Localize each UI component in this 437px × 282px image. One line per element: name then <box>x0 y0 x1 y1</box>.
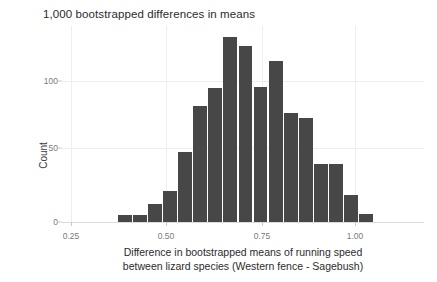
x-tick-label-050: 0.50 <box>158 231 175 241</box>
x-tick-label-025: 0.25 <box>63 231 80 241</box>
y-tick-mark-100 <box>58 81 62 82</box>
x-axis-line <box>62 222 424 223</box>
histogram-bar <box>148 204 162 222</box>
y-axis-label: Count <box>38 111 49 201</box>
histogram-bar <box>223 37 237 222</box>
histogram-bar <box>254 87 268 222</box>
y-tick-mark-0 <box>58 222 62 223</box>
x-tick-mark-025 <box>71 222 72 226</box>
y-axis-ticks: 100 50 0 Count <box>20 26 58 222</box>
histogram-bar <box>359 214 373 222</box>
x-axis-label-line1: Difference in bootstrapped means of runn… <box>62 246 424 260</box>
x-tick-label-075: 0.75 <box>254 231 271 241</box>
histogram-bar <box>344 195 358 222</box>
x-tick-label-100: 1.00 <box>347 231 364 241</box>
histogram-bar <box>208 88 222 222</box>
x-tick-mark-100 <box>355 222 356 226</box>
histogram-bars <box>62 26 424 222</box>
x-axis-label-line2: between lizard species (Western fence - … <box>62 260 424 274</box>
y-tick-label-0: 0 <box>24 217 58 227</box>
y-tick-label-100: 100 <box>24 76 58 86</box>
histogram-bar <box>299 118 313 222</box>
histogram-bar <box>193 106 207 222</box>
x-tick-mark-075 <box>262 222 263 226</box>
page-title: 1,000 bootstrapped differences in means <box>43 8 255 20</box>
histogram-bar <box>329 164 343 222</box>
histogram-bar <box>178 152 192 223</box>
x-axis-label: Difference in bootstrapped means of runn… <box>62 246 424 273</box>
histogram-bar <box>314 164 328 222</box>
histogram-bar <box>284 113 298 222</box>
histogram-bar <box>163 191 177 222</box>
y-tick-mark-50 <box>58 148 62 149</box>
histogram-figure: 1,000 bootstrapped differences in means … <box>0 0 437 282</box>
histogram-bar <box>269 61 283 222</box>
x-tick-mark-050 <box>166 222 167 226</box>
histogram-bar <box>239 46 253 222</box>
histogram-bar <box>133 215 147 222</box>
histogram-bar <box>118 215 132 222</box>
